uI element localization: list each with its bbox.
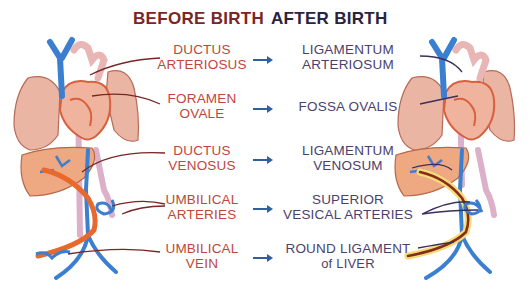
heart-icon xyxy=(444,81,494,139)
left-lung-icon xyxy=(398,77,444,150)
postnatal-circulation-icon xyxy=(0,0,531,295)
